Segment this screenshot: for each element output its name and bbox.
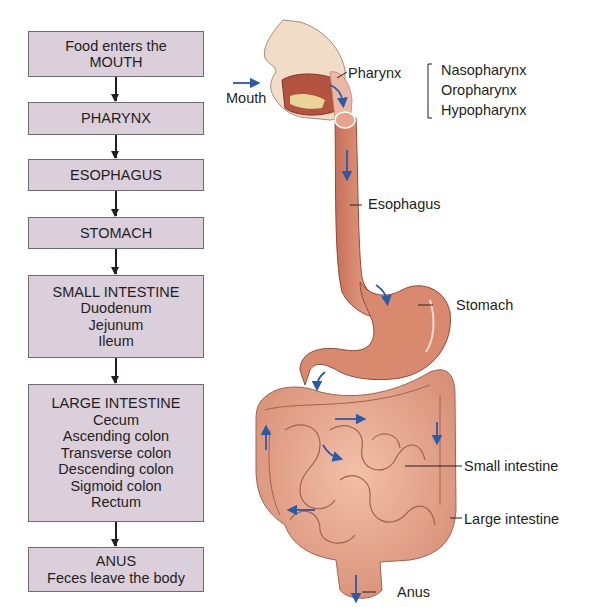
large-intestine-shape (256, 370, 456, 598)
label-anus: Anus (397, 584, 430, 600)
label-pharynx: Pharynx (348, 65, 401, 81)
esophagus-shape (335, 118, 402, 319)
label-stomach: Stomach (456, 297, 513, 313)
label-mouth: Mouth (226, 90, 266, 106)
label-nasopharynx: Nasopharynx (441, 62, 526, 78)
label-large-intestine: Large intestine (464, 511, 559, 527)
label-small-intestine: Small intestine (464, 458, 558, 474)
head-profile (264, 20, 352, 128)
label-oropharynx: Oropharynx (441, 82, 517, 98)
label-hypopharynx: Hypopharynx (441, 102, 526, 118)
label-esophagus: Esophagus (368, 196, 441, 212)
stomach-shape (300, 282, 450, 385)
